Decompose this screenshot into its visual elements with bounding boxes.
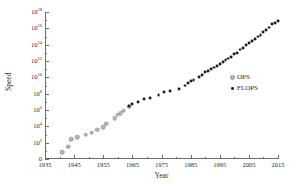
x-tick-label: 1955 [97,162,110,169]
speed-vs-year-chart: 010210410610810101012101410161018 193519… [0,0,297,188]
x-tick-minor [60,157,61,159]
x-tick-major [191,155,192,159]
x-tick-major [162,155,163,159]
y-tick-minor [45,37,47,38]
chart-legend: OPSFLOPS [228,72,258,94]
x-tick-minor [263,157,264,159]
y-tick-minor [45,20,47,21]
y-tick-minor [45,86,47,87]
data-point-flops [198,76,201,79]
y-tick-minor [45,53,47,54]
x-tick-minor [176,157,177,159]
legend-label: OPS [237,74,250,81]
x-tick-major [45,155,46,159]
y-tick-label: 108 [33,90,42,97]
data-point-flops [201,73,204,76]
data-point-flops [192,78,195,81]
x-tick-label: 1985 [184,162,197,169]
x-tick-label: 2005 [242,162,255,169]
x-tick-minor [89,157,90,159]
data-point-ops [69,137,74,142]
data-point-flops [183,84,186,87]
data-point-flops [236,51,239,54]
y-tick-label: 104 [33,123,42,130]
data-point-flops [163,91,166,94]
y-tick-label: 1010 [31,74,42,81]
y-tick-label: 1018 [31,9,42,16]
x-tick-label: 1935 [39,162,52,169]
y-tick-major [45,12,49,13]
data-point-flops [143,98,146,101]
y-tick-major [45,94,49,95]
data-point-ops [104,122,109,127]
data-point-flops [169,90,172,93]
x-tick-label: 1995 [213,162,226,169]
y-tick-label: 106 [33,107,42,114]
data-point-ops [60,150,65,155]
data-point-flops [178,87,181,90]
data-point-ops [95,127,100,132]
data-point-flops [131,103,134,106]
y-tick-minor [45,135,47,136]
legend-item-ops[interactable]: OPS [228,72,258,83]
x-tick-major [103,155,104,159]
data-point-flops [242,46,245,49]
filled-circle-icon [228,87,237,90]
y-tick-label: 102 [33,139,42,146]
data-point-ops [121,109,126,114]
x-tick-major [249,155,250,159]
data-point-flops [250,40,253,43]
y-tick-minor [45,102,47,103]
data-point-flops [265,29,268,32]
data-point-flops [253,37,256,40]
data-point-flops [218,63,221,66]
data-point-flops [137,100,140,103]
y-tick-minor [45,69,47,70]
y-tick-major [45,61,49,62]
y-tick-minor [45,151,47,152]
y-tick-major [45,110,49,111]
x-tick-major [220,155,221,159]
data-point-ops [89,131,94,136]
data-point-flops [277,20,280,23]
x-axis-title: Year [45,172,278,180]
x-tick-label: 1975 [155,162,168,169]
data-point-ops [83,132,88,137]
open-circle-icon [228,75,237,80]
y-tick-major [45,77,49,78]
x-tick-minor [205,157,206,159]
x-tick-label: 2015 [272,162,285,169]
y-tick-label: 1016 [31,25,42,32]
y-tick-major [45,45,49,46]
legend-item-flops[interactable]: FLOPS [228,83,258,94]
data-point-flops [230,55,233,58]
data-point-flops [148,96,151,99]
y-tick-major [45,126,49,127]
x-tick-label: 1945 [68,162,81,169]
data-point-ops [66,144,71,149]
data-point-flops [259,33,262,36]
legend-label: FLOPS [237,85,258,92]
x-tick-minor [234,157,235,159]
x-tick-major [278,155,279,159]
y-tick-major [45,143,49,144]
y-tick-major [45,159,49,160]
data-point-flops [268,26,271,29]
x-tick-major [74,155,75,159]
data-point-ops [75,135,80,140]
y-axis-title: Speed [5,57,13,107]
data-point-flops [157,94,160,97]
x-tick-minor [147,157,148,159]
x-tick-minor [118,157,119,159]
x-tick-label: 1965 [126,162,139,169]
data-point-flops [245,44,248,47]
data-point-flops [262,31,265,34]
y-tick-major [45,28,49,29]
y-tick-label: 1014 [31,41,42,48]
x-tick-major [132,155,133,159]
y-tick-label: 1012 [31,58,42,65]
y-tick-minor [45,118,47,119]
